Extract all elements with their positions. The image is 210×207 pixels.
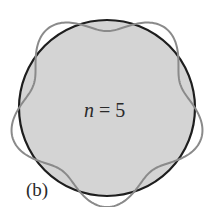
mode-diagram: n = 5 (b) bbox=[0, 0, 210, 207]
mode-value: = 5 bbox=[94, 99, 125, 121]
mode-label: n = 5 bbox=[84, 99, 125, 121]
panel-label: (b) bbox=[26, 179, 48, 201]
mode-variable: n bbox=[84, 99, 94, 121]
